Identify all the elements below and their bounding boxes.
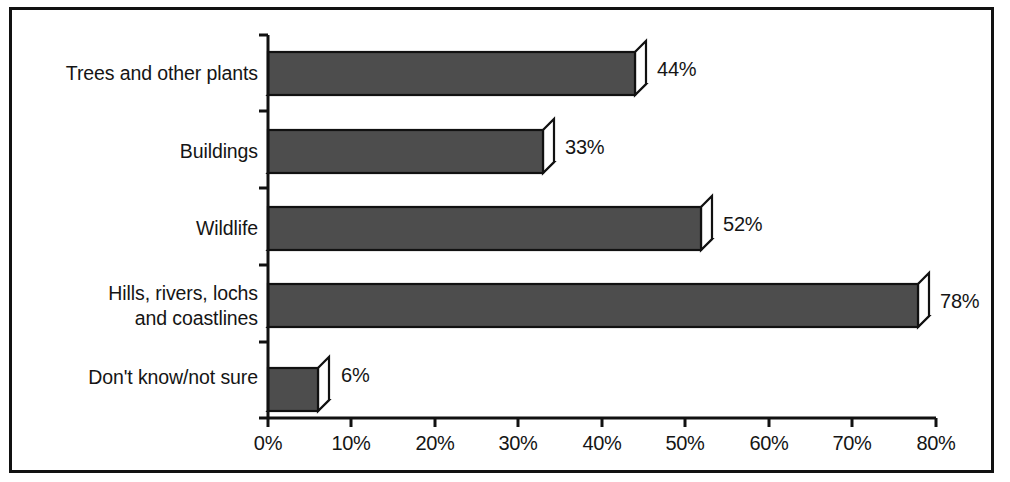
bar-front-face [268,52,635,95]
x-tick-label-20: 20% [395,432,475,455]
category-label-wildlife: Wildlife [20,216,258,241]
category-label-buildings: Buildings [20,139,258,164]
y-axis [259,35,268,418]
x-tick-label-70: 70% [812,432,892,455]
x-tick-label-0: 0% [228,432,308,455]
x-tick-label-80: 80% [896,432,976,455]
value-label-trees-and-other-plants: 44% [657,58,696,81]
x-axis [268,418,936,427]
bar-front-face [268,130,543,173]
bar-buildings [268,119,554,173]
x-tick-label-30: 30% [478,432,558,455]
bar-front-face [268,284,918,327]
category-label-trees-and-other-plants: Trees and other plants [20,61,258,86]
category-label-hills-rivers-lochs-and-coastlines: Hills, rivers, lochs and coastlines [20,281,258,331]
bar-side-face [918,273,929,327]
category-label-dont-know-not-sure: Don't know/not sure [12,365,258,390]
x-tick-label-40: 40% [562,432,642,455]
bar-hills-rivers-lochs [268,273,929,327]
value-label-wildlife: 52% [723,213,762,236]
bar-front-face [268,368,318,411]
bar-front-face [268,207,701,250]
x-tick-label-50: 50% [645,432,725,455]
bar-side-face [635,41,646,95]
value-label-dont-know-not-sure: 6% [341,364,370,387]
x-tick-label-60: 60% [729,432,809,455]
bar-side-face [543,119,554,173]
bar-trees-other-plants [268,41,646,95]
bar-side-face [318,357,329,411]
bar-dont-know [268,357,329,411]
bar-side-face [701,196,712,250]
value-label-hills-rivers-lochs-and-coastlines: 78% [940,290,979,313]
value-label-buildings: 33% [565,136,604,159]
x-tick-label-10: 10% [311,432,391,455]
chart-figure: Trees and other plants Buildings Wildlif… [0,0,1010,482]
bar-wildlife [268,196,712,250]
